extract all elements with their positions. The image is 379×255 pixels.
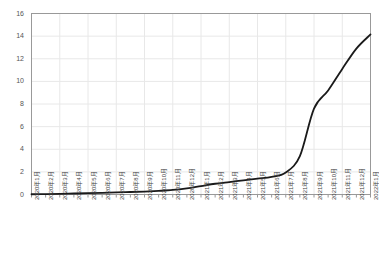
x-tick-label: 2021年10月 xyxy=(331,167,337,199)
x-tick-label: 2020年4月 xyxy=(76,171,82,200)
x-tick-label: 2021年6月 xyxy=(274,171,280,200)
x-tick-label: 2021年5月 xyxy=(260,171,266,200)
x-tick-label: 2021年4月 xyxy=(246,171,252,200)
x-tick-label: 2022年1月 xyxy=(373,171,379,200)
x-axis-tick-labels: 2020年1月2020年2月2020年3月2020年4月2020年5月2020年… xyxy=(0,0,379,255)
x-tick-label: 2021年8月 xyxy=(302,171,308,200)
x-tick-label: 2020年1月 xyxy=(34,171,40,200)
x-tick-label: 2020年2月 xyxy=(48,171,54,200)
x-tick-label: 2021年11月 xyxy=(345,168,351,200)
x-tick-label: 2020年6月 xyxy=(105,171,111,200)
x-tick-label: 2021年9月 xyxy=(317,171,323,200)
x-tick-label: 2020年7月 xyxy=(119,171,125,200)
x-tick-label: 2020年9月 xyxy=(147,171,153,200)
x-tick-label: 2021年1月 xyxy=(204,171,210,200)
x-tick-label: 2021年2月 xyxy=(218,171,224,200)
x-tick-label: 2020年12月 xyxy=(189,167,195,199)
x-tick-label: 2021年3月 xyxy=(232,171,238,200)
x-tick-label: 2020年8月 xyxy=(133,171,139,200)
x-tick-label: 2021年7月 xyxy=(288,171,294,200)
x-tick-label: 2020年10月 xyxy=(161,167,167,199)
x-tick-label: 2020年11月 xyxy=(175,168,181,200)
line-chart: 0246810121416 2020年1月2020年2月2020年3月2020年… xyxy=(0,0,379,255)
x-tick-label: 2020年5月 xyxy=(91,171,97,200)
x-tick-label: 2021年12月 xyxy=(359,167,365,199)
x-tick-label: 2020年3月 xyxy=(62,171,68,200)
